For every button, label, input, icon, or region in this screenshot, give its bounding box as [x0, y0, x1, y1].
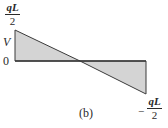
zero-label: 0: [3, 55, 9, 67]
minus-sign: −: [138, 106, 144, 117]
top-value-numerator: qL: [6, 2, 18, 13]
axis-label-v: V: [3, 36, 10, 48]
figure-caption: (b): [79, 107, 93, 119]
positive-shear-region: [15, 30, 80, 61]
top-value-label: qL 2: [5, 2, 20, 27]
bottom-value-numerator: qL: [148, 96, 160, 107]
bottom-value-label: qL 2: [147, 96, 162, 121]
top-value-denominator: 2: [10, 16, 16, 27]
bottom-value-denominator: 2: [152, 110, 158, 121]
negative-shear-region: [80, 61, 146, 94]
